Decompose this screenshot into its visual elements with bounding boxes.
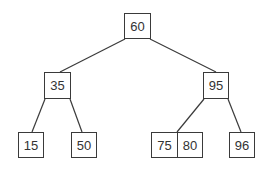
node-60: 60 <box>124 13 151 39</box>
node-15: 15 <box>18 132 44 158</box>
edge-35-50 <box>70 99 82 132</box>
node-50: 50 <box>71 132 97 158</box>
node-96: 96 <box>229 132 255 158</box>
edge-35-15 <box>32 99 45 132</box>
edge-60-95 <box>150 39 216 72</box>
node-95: 95 <box>203 72 229 99</box>
edge-60-35 <box>60 39 125 72</box>
node-75: 75 <box>151 132 178 158</box>
node-35: 35 <box>44 72 71 99</box>
edge-95-75-80 <box>177 99 204 132</box>
node-80: 80 <box>177 132 203 158</box>
edge-95-96 <box>228 99 241 132</box>
